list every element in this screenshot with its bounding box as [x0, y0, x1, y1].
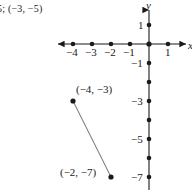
- data-point-lower[interactable]: [108, 174, 113, 179]
- graph-canvas: [0, 0, 192, 190]
- y-tick-label-neg3: −3: [131, 96, 143, 107]
- y-tick-dot-neg3: [147, 99, 152, 104]
- origin-dot: [146, 41, 151, 46]
- y-tick-dot-neg6: [147, 156, 152, 161]
- point-label-upper: (−4, −3): [76, 84, 112, 95]
- x-axis-label: x: [188, 40, 192, 51]
- x-tick-label-neg3: −3: [85, 47, 97, 58]
- data-point-upper[interactable]: [70, 98, 75, 103]
- x-tick-label-neg4: −4: [66, 47, 78, 58]
- y-tick-dot-neg1: [147, 61, 152, 66]
- y-tick-dot-neg2: [147, 80, 152, 85]
- coordinate-plane-figure: 5; (−3, −5) y x −4 −3 −2 −1 1 1 −1 −3 −5…: [0, 0, 192, 190]
- y-tick-dot-neg7: [147, 175, 152, 180]
- x-tick-label-pos1: 1: [165, 47, 171, 58]
- y-tick-dot-neg4: [147, 118, 152, 123]
- x-tick-label-neg2: −2: [104, 47, 116, 58]
- y-tick-dot-pos1: [147, 23, 152, 28]
- y-tick-label-pos1: 1: [138, 20, 144, 31]
- y-axis-label: y: [146, 0, 151, 11]
- y-tick-dot-neg5: [147, 137, 152, 142]
- y-tick-label-neg1: −1: [131, 58, 143, 69]
- point-label-lower: (−2, −7): [60, 167, 96, 178]
- caption-fragment: 5; (−3, −5): [0, 4, 42, 14]
- y-tick-label-neg7: −7: [131, 172, 143, 183]
- y-tick-label-neg5: −5: [131, 134, 143, 145]
